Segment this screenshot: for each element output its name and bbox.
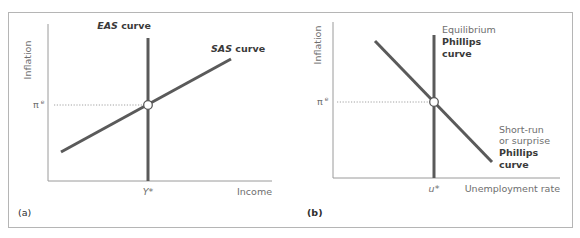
panel-a: Inflation Income πe Y* EAS curve SAS cur… <box>18 20 272 218</box>
panel-b: Inflation Unemployment rate πe u* Equili… <box>307 18 560 218</box>
panel-a-x-axis-label: Income <box>237 186 272 197</box>
panel-b-x-tick-ustar: u* <box>429 183 440 194</box>
sas-curve-label: SAS curve <box>211 43 265 54</box>
panel-a-x-tick-ystar: Y* <box>143 186 154 197</box>
eas-curve-label: EAS curve <box>97 20 151 31</box>
panel-b-tag: (b) <box>307 207 322 218</box>
panel-a-equilibrium-point <box>144 101 153 110</box>
panel-a-y-tick-pi: πe <box>33 98 45 110</box>
panel-b-y-axis-label: Inflation <box>312 26 323 65</box>
equilibrium-phillips-label: Equilibrium Phillips curve <box>442 18 501 59</box>
figure-canvas: Inflation Income πe Y* EAS curve SAS cur… <box>0 0 580 238</box>
panel-b-x-axis-label: Unemployment rate <box>465 183 560 194</box>
panel-a-tag: (a) <box>18 207 31 218</box>
panel-b-equilibrium-point <box>430 98 439 107</box>
short-run-phillips-label: Short-run or surprise Phillips curve <box>499 118 555 170</box>
panel-b-y-tick-pi: πe <box>317 95 329 107</box>
panel-a-y-axis-label: Inflation <box>22 41 33 80</box>
